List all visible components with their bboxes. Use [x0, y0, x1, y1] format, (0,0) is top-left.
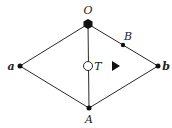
play-triangle-icon: [112, 61, 120, 71]
edge-a-A: [20, 66, 89, 108]
edge-O-a: [20, 24, 88, 66]
node-a-label: a: [7, 60, 14, 73]
node-A-dot: [87, 106, 92, 111]
node-O-label: O: [83, 4, 92, 17]
node-A-label: A: [84, 113, 93, 126]
node-b-dot: [156, 64, 161, 69]
graph-diagram: O B a b A T: [0, 0, 172, 128]
node-b-label: b: [162, 60, 170, 73]
node-B-label: B: [123, 30, 132, 43]
node-T-label: T: [94, 60, 103, 73]
node-a-dot: [18, 64, 23, 69]
node-T-open-circle: [84, 62, 93, 71]
node-B-dot: [121, 43, 125, 47]
node-O-hexagon-icon: [84, 19, 93, 29]
